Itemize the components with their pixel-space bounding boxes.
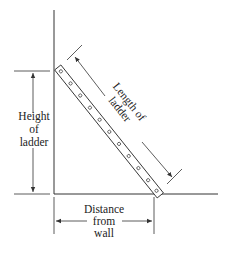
height-label-line1: Height — [18, 110, 50, 123]
height-label-line2: of — [29, 123, 39, 135]
distance-label-line3: wall — [94, 227, 114, 239]
distance-label-line1: Distance — [84, 203, 124, 215]
height-label-line3: ladder — [20, 136, 49, 148]
ladder — [55, 65, 164, 198]
distance-dimension: Distance from wall — [54, 197, 154, 239]
ladder-diagram: Height of ladder Length of ladder — [0, 0, 227, 253]
height-dimension: Height of ladder — [14, 71, 50, 194]
distance-label-line2: from — [93, 215, 115, 227]
length-dimension: Length of ladder — [67, 45, 182, 184]
